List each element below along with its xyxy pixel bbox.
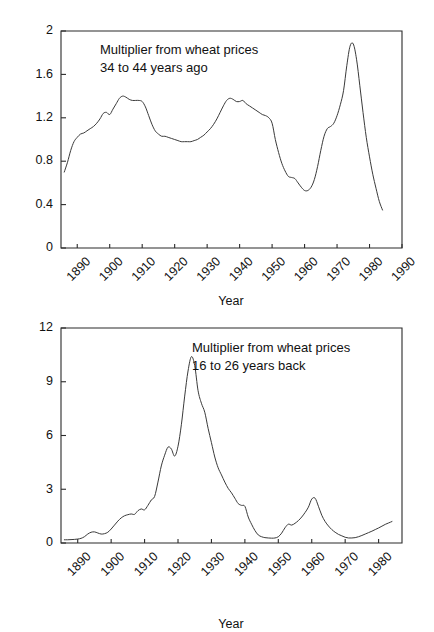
x-axis-title-top: Year xyxy=(218,294,243,308)
y-tick-label: 0 xyxy=(46,535,53,549)
figure-page: 00.40.81.21.62 1890190019101920193019401… xyxy=(0,0,434,632)
y-tick-label: 3 xyxy=(46,482,53,496)
annotation-line2-top: 34 to 44 years ago xyxy=(100,60,208,75)
chart-svg-bottom: 036912 189019001910192019301940195019601… xyxy=(0,316,434,632)
y-tick-label: 6 xyxy=(46,428,53,442)
annotation-line2-bottom: 16 to 26 years back xyxy=(192,358,306,373)
y-tick-label: 9 xyxy=(46,374,53,388)
chart-panel-bottom: 036912 189019001910192019301940195019601… xyxy=(0,316,434,632)
y-tick-label: 1.6 xyxy=(36,67,53,81)
chart-panel-top: 00.40.81.21.62 1890190019101920193019401… xyxy=(0,0,434,316)
annotation-line1-bottom: Multiplier from wheat prices xyxy=(192,340,351,355)
y-tick-label: 12 xyxy=(39,320,53,334)
y-tick-label: 1.2 xyxy=(36,110,53,124)
y-tick-label: 0.4 xyxy=(36,197,53,211)
chart-svg-top: 00.40.81.21.62 1890190019101920193019401… xyxy=(0,0,434,316)
annotation-line1-top: Multiplier from wheat prices xyxy=(100,42,259,57)
y-tick-label: 0 xyxy=(46,240,53,254)
x-axis-title-bottom: Year xyxy=(218,617,243,631)
y-tick-label: 2 xyxy=(46,23,53,37)
y-tick-label: 0.8 xyxy=(36,153,53,167)
